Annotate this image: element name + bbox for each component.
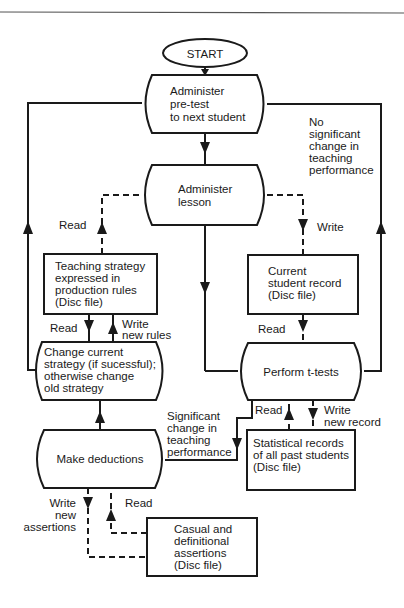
start-node: START bbox=[163, 39, 247, 67]
svg-text:No: No bbox=[309, 116, 324, 128]
svg-text:production rules: production rules bbox=[55, 284, 137, 296]
pretest-node: Administer pre-test to next student bbox=[146, 75, 264, 133]
label-write-new-record: Write new record bbox=[324, 404, 381, 428]
ttests-node: Perform t-tests bbox=[241, 343, 361, 400]
svg-text:Current: Current bbox=[268, 265, 307, 277]
edge-strategy-change-read bbox=[84, 314, 94, 342]
change-strategy-node: Change current strategy (if sucessful); … bbox=[36, 342, 163, 400]
svg-text:assertions: assertions bbox=[174, 547, 227, 559]
label-read-strategy: Read bbox=[59, 219, 87, 231]
statistical-file-node: Statistical records of all past students… bbox=[247, 430, 355, 490]
svg-text:Write: Write bbox=[49, 497, 76, 509]
label-read-stats: Read bbox=[255, 404, 283, 416]
label-write-new-rules: Write new rules bbox=[122, 318, 171, 341]
svg-text:new record: new record bbox=[324, 416, 381, 428]
svg-text:START: START bbox=[187, 48, 224, 60]
label-significant-change: Significant change in teaching performan… bbox=[167, 410, 232, 458]
svg-text:(Disc file): (Disc file) bbox=[55, 296, 103, 308]
svg-text:Administer: Administer bbox=[178, 183, 232, 195]
student-record-node: Current student record (Disc file) bbox=[248, 255, 358, 314]
svg-text:student record: student record bbox=[268, 277, 342, 289]
assertions-file-node: Casual and definitional assertions (Disc… bbox=[147, 518, 257, 576]
svg-text:definitional: definitional bbox=[174, 535, 229, 547]
edge-assertions-deductions bbox=[106, 488, 147, 533]
svg-text:(Disc file): (Disc file) bbox=[253, 461, 301, 473]
edge-strategy-lesson bbox=[97, 195, 140, 254]
strategy-file-node: Teaching strategy expressed in productio… bbox=[44, 254, 157, 314]
svg-text:Make deductions: Make deductions bbox=[57, 453, 144, 465]
svg-text:new: new bbox=[55, 509, 77, 521]
label-read-rules: Read bbox=[50, 322, 78, 334]
svg-text:otherwise change: otherwise change bbox=[44, 370, 134, 382]
label-write-record: Write bbox=[317, 221, 344, 233]
svg-text:(Disc file): (Disc file) bbox=[174, 559, 222, 571]
svg-text:pre-test: pre-test bbox=[170, 98, 210, 110]
svg-text:assertions: assertions bbox=[24, 521, 77, 533]
edge-lesson-record bbox=[267, 195, 308, 255]
label-read-assertions: Read bbox=[125, 497, 153, 509]
svg-text:change in: change in bbox=[309, 140, 359, 152]
edge-change-strategy-write bbox=[108, 314, 118, 342]
svg-text:expressed in: expressed in bbox=[55, 272, 120, 284]
svg-text:Write: Write bbox=[324, 404, 351, 416]
label-write-new-assertions: Write new assertions bbox=[24, 497, 77, 533]
edge-pretest-lesson bbox=[200, 133, 210, 165]
edge-record-ttests bbox=[298, 314, 308, 343]
svg-text:Change current: Change current bbox=[44, 346, 124, 358]
label-read-record: Read bbox=[258, 323, 286, 335]
svg-text:new rules: new rules bbox=[122, 329, 171, 341]
svg-text:teaching: teaching bbox=[167, 434, 210, 446]
svg-text:Administer: Administer bbox=[170, 85, 224, 97]
svg-text:(Disc file): (Disc file) bbox=[268, 289, 316, 301]
svg-text:Significant: Significant bbox=[167, 410, 221, 422]
svg-text:change in: change in bbox=[167, 422, 217, 434]
svg-text:Statistical records: Statistical records bbox=[253, 437, 344, 449]
svg-text:strategy (if sucessful);: strategy (if sucessful); bbox=[44, 358, 156, 370]
svg-text:teaching: teaching bbox=[309, 152, 352, 164]
label-no-significant-change: No significant change in teaching perfor… bbox=[309, 116, 374, 176]
lesson-node: Administer lesson bbox=[145, 165, 264, 225]
svg-text:Casual and: Casual and bbox=[174, 523, 232, 535]
edge-lesson-ttests bbox=[200, 225, 238, 371]
svg-text:Perform t-tests: Perform t-tests bbox=[263, 366, 339, 378]
edge-deductions-change bbox=[95, 400, 105, 430]
deductions-node: Make deductions bbox=[37, 430, 162, 488]
svg-text:of all past students: of all past students bbox=[253, 449, 349, 461]
edge-ttests-stats bbox=[308, 400, 318, 430]
svg-text:performance: performance bbox=[167, 446, 232, 458]
svg-text:significant: significant bbox=[309, 128, 361, 140]
svg-text:lesson: lesson bbox=[178, 196, 211, 208]
top-rule bbox=[0, 12, 404, 13]
flowchart: START Administer pre-test to next studen… bbox=[0, 0, 404, 608]
edge-stats-ttests bbox=[284, 400, 294, 430]
svg-text:Teaching strategy: Teaching strategy bbox=[55, 260, 145, 272]
svg-text:performance: performance bbox=[309, 164, 374, 176]
svg-text:to next student: to next student bbox=[170, 111, 246, 123]
svg-text:old strategy: old strategy bbox=[44, 382, 104, 394]
